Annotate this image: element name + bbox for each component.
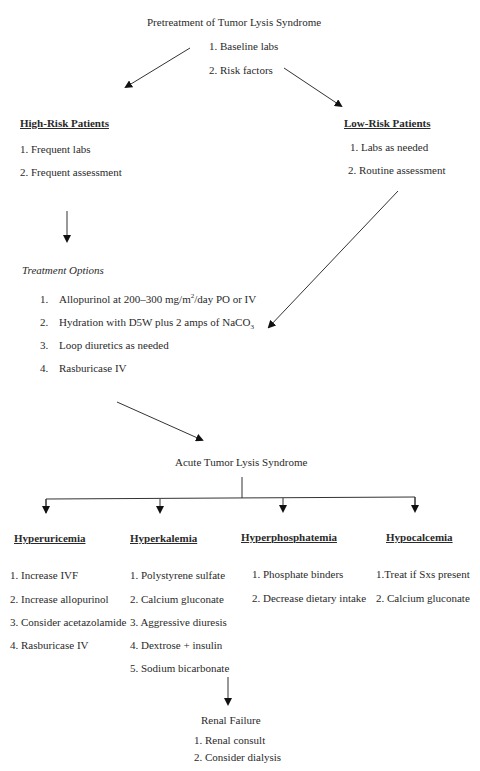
arrow-to-high-risk — [126, 48, 190, 87]
high-risk-item: 1. Frequent labs — [20, 143, 91, 155]
branch-item: 2. Calcium gluconate — [130, 593, 224, 605]
arrow-treatment-to-acute — [117, 402, 202, 440]
hypocalcemia-title: Hypocalcemia — [386, 531, 453, 543]
branch-item: 3. Consider acetazolamide — [10, 616, 126, 628]
low-risk-title: Low-Risk Patients — [344, 117, 430, 129]
treatment-item: 2.Hydration with D5W plus 2 amps of NaCO… — [40, 316, 254, 331]
high-risk-item: 2. Frequent assessment — [20, 166, 122, 178]
renal-failure-item: 1. Renal consult — [194, 734, 265, 746]
renal-failure-title: Renal Failure — [201, 714, 261, 726]
treatment-item: 4.Rasburicase IV — [40, 362, 127, 374]
acute-tls-title: Acute Tumor Lysis Syndrome — [175, 456, 307, 468]
low-risk-item: 1. Labs as needed — [350, 141, 428, 153]
branch-item: 1.Treat if Sxs present — [376, 568, 470, 580]
treatment-item: 1.Allopurinol at 200–300 mg/m2/day PO or… — [40, 292, 256, 305]
pretreatment-item: 2. Risk factors — [209, 64, 273, 76]
hyperkalemia-title: Hyperkalemia — [130, 532, 197, 544]
high-risk-title: High-Risk Patients — [20, 117, 109, 129]
branch-item: 2. Decrease dietary intake — [252, 592, 366, 604]
branch-item: 3. Aggressive diuresis — [130, 616, 227, 628]
arrow-to-low-risk — [284, 68, 341, 106]
treatment-options-title: Treatment Options — [22, 264, 104, 276]
branch-item: 2. Increase allopurinol — [10, 593, 109, 605]
arrow-low-risk-to-treatment — [269, 191, 398, 327]
hyperuricemia-title: Hyperuricemia — [14, 532, 85, 544]
branch-item: 5. Sodium bicarbonate — [130, 662, 229, 674]
low-risk-item: 2. Routine assessment — [348, 164, 445, 176]
branch-item: 4. Dextrose + insulin — [130, 639, 222, 651]
branch-item: 4. Rasburicase IV — [10, 639, 89, 651]
branch-bar — [46, 497, 415, 513]
treatment-item: 3.Loop diuretics as needed — [40, 339, 169, 351]
branch-item: 2. Calcium gluconate — [376, 592, 470, 604]
pretreatment-item: 1. Baseline labs — [209, 40, 278, 52]
branch-item: 1. Polystyrene sulfate — [130, 569, 225, 581]
hyperphosphatemia-title: Hyperphosphatemia — [241, 531, 337, 543]
connector-lines — [0, 0, 480, 771]
branch-item: 1. Phosphate binders — [252, 568, 343, 580]
branch-item: 1. Increase IVF — [10, 569, 78, 581]
renal-failure-item: 2. Consider dialysis — [194, 751, 281, 763]
pretreatment-title: Pretreatment of Tumor Lysis Syndrome — [147, 16, 321, 28]
